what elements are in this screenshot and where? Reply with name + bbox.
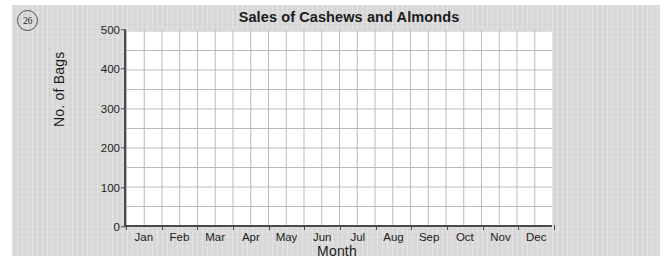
page-root: 26 Sales of Cashews and Almonds No. of B… [0,0,672,264]
x-axis-tick-mark [376,225,377,230]
x-axis-tick-mark [411,225,412,230]
x-axis-tick-mark [233,225,234,230]
y-axis-tick-mark [121,147,126,148]
x-axis-tick-mark [304,225,305,230]
x-axis-tick-mark [447,225,448,230]
x-axis-tick-mark [126,225,127,230]
y-axis-tick-mark [121,69,126,70]
x-axis-tick-mark [340,225,341,230]
x-axis-tick-mark [162,225,163,230]
y-axis-tick-label: 200 [101,142,120,154]
y-axis-tick-label: 100 [101,182,120,194]
y-axis-tick-label: 500 [101,24,120,36]
y-axis-label: No. of Bags [51,52,67,127]
x-axis-tick-label: Feb [170,231,190,243]
x-axis-tick-label: Sep [419,231,439,243]
x-axis-tick-mark [197,225,198,230]
x-axis-tick-label: Nov [490,231,510,243]
x-axis-label: Month [124,243,550,259]
y-axis-tick-label: 300 [101,103,120,115]
y-axis-tick-mark [121,108,126,109]
y-axis-tick-mark [121,29,126,30]
plot-gridlines [126,30,552,225]
x-axis-tick-mark [518,225,519,230]
x-axis-tick-label: Jul [350,231,365,243]
y-axis-tick-label: 0 [114,221,120,233]
x-axis-tick-label: Jun [313,231,332,243]
x-axis-tick-label: Jan [135,231,154,243]
x-axis-tick-mark [554,225,555,230]
x-axis-tick-label: May [276,231,298,243]
y-axis-tick-label: 400 [101,63,120,75]
x-axis-tick-label: Apr [242,231,260,243]
x-axis-tick-label: Dec [526,231,546,243]
chart-title: Sales of Cashews and Almonds [136,9,562,25]
x-axis-tick-mark [269,225,270,230]
chart-card: 26 Sales of Cashews and Almonds No. of B… [12,5,660,256]
question-number-badge: 26 [17,10,38,31]
y-axis-tick-mark [121,187,126,188]
x-axis-tick-label: Mar [205,231,225,243]
x-axis-tick-label: Oct [456,231,474,243]
x-axis-tick-label: Aug [383,231,403,243]
plot-area: 0100200300400500 JanFebMarAprMayJunJulAu… [124,30,552,227]
x-axis-tick-mark [483,225,484,230]
